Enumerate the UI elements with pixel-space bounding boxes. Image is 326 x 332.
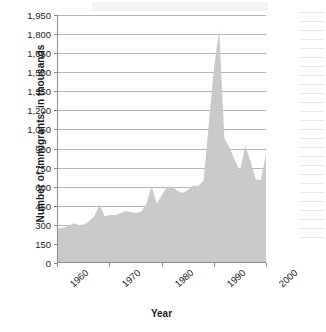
x-tick-mark [109, 263, 110, 267]
y-tick-label: 750 [35, 162, 51, 173]
x-tick-label: 1980 [172, 267, 195, 289]
y-tick-label: 1,500 [27, 67, 51, 78]
x-tick-mark [57, 263, 58, 267]
page-bleed-artifact-right [300, 12, 324, 242]
area-fill-path [58, 31, 266, 262]
plot-area [57, 15, 266, 263]
x-axis-title: Year [57, 308, 266, 319]
x-tick-mark [162, 263, 163, 267]
page-bleed-artifact-top [92, 2, 268, 11]
y-tick-label: 600 [35, 181, 51, 192]
y-tick-label: 150 [35, 238, 51, 249]
x-tick-label: 2000 [276, 267, 299, 289]
y-tick-label: 450 [35, 200, 51, 211]
x-tick-label: 1990 [224, 267, 247, 289]
y-tick-label: 1,200 [27, 105, 51, 116]
y-tick-label: 1,800 [27, 29, 51, 40]
x-tick-label: 1960 [67, 267, 90, 289]
x-tick-mark [266, 263, 267, 267]
y-tick-label: 1,950 [27, 10, 51, 21]
y-tick-label: 1,050 [27, 124, 51, 135]
y-tick-label: 900 [35, 143, 51, 154]
y-tick-label: 1,650 [27, 48, 51, 59]
x-tick-mark [214, 263, 215, 267]
area-series-immigrants [58, 15, 266, 262]
x-axis-tick-group: 19601970198019902000 [0, 263, 326, 303]
y-tick-label: 300 [35, 219, 51, 230]
y-tick-label: 1,350 [27, 86, 51, 97]
immigration-area-chart: Number of immigrants, in thousands 01503… [0, 0, 326, 332]
x-tick-label: 1970 [120, 267, 143, 289]
